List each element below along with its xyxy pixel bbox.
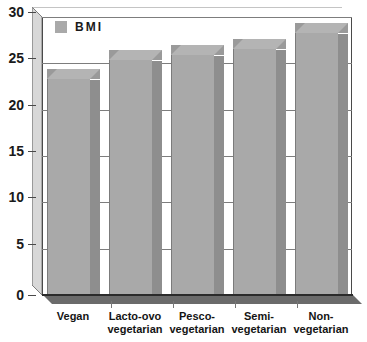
bar xyxy=(47,79,90,295)
x-category-label: Vegan xyxy=(39,310,107,323)
bar-top-face xyxy=(109,50,162,60)
bar-side-face xyxy=(90,80,100,295)
x-tick-mark xyxy=(173,301,174,308)
x-category-label: Semi-vegetarian xyxy=(225,310,293,336)
x-category-label-line: vegetarian xyxy=(101,323,169,336)
y-tick-mark xyxy=(28,197,36,198)
x-tick-mark xyxy=(111,301,112,308)
x-category-label-line: Pesco- xyxy=(163,310,231,323)
bar-top-face xyxy=(171,45,224,55)
x-category-label-line: Semi- xyxy=(225,310,293,323)
legend-label-bmi: BMI xyxy=(75,20,103,34)
y-tick-mark xyxy=(28,244,36,245)
x-category-label-line: Vegan xyxy=(39,310,107,323)
bar-top-face xyxy=(47,69,100,79)
y-tick-mark xyxy=(28,151,36,152)
y-tick-label: 30 xyxy=(0,5,24,19)
x-category-label: Pesco-vegetarian xyxy=(163,310,231,336)
bar-front-face xyxy=(233,49,276,295)
bar-side-face xyxy=(338,34,348,295)
gridline xyxy=(42,17,352,18)
bar xyxy=(295,33,338,295)
x-category-label: Lacto-ovovegetarian xyxy=(101,310,169,336)
bar xyxy=(233,49,276,295)
x-category-label-line: vegetarian xyxy=(287,323,355,336)
y-tick-label: 10 xyxy=(0,190,24,204)
x-category-label-line: vegetarian xyxy=(163,323,231,336)
bar-side-face xyxy=(152,61,162,295)
y-tick-mark xyxy=(28,12,36,13)
bar-front-face xyxy=(171,55,214,295)
y-tick-mark xyxy=(28,105,36,106)
y-tick-mark xyxy=(28,58,36,59)
bmi-bar-chart: 051015202530 BMI VeganLacto-ovovegetaria… xyxy=(0,0,367,342)
y-tick-label: 20 xyxy=(0,98,24,112)
bar xyxy=(109,60,152,295)
bar-front-face xyxy=(47,79,90,295)
bar-top-face xyxy=(295,23,348,33)
bar xyxy=(171,55,214,295)
y-tick-label: 15 xyxy=(0,144,24,158)
bar-front-face xyxy=(295,33,338,295)
x-category-label-line: Non- xyxy=(287,310,355,323)
y-tick-label: 5 xyxy=(0,237,24,251)
y-tick-mark xyxy=(28,295,36,296)
bar-top-face xyxy=(233,39,286,49)
bar-side-face xyxy=(276,50,286,295)
legend: BMI xyxy=(55,20,103,34)
x-tick-mark xyxy=(235,301,236,308)
x-axis-baseline xyxy=(42,294,353,296)
x-category-label-line: Lacto-ovo xyxy=(101,310,169,323)
y-tick-label: 25 xyxy=(0,51,24,65)
bar-side-face xyxy=(214,56,224,295)
legend-swatch-bmi xyxy=(55,21,67,33)
y-tick-label: 0 xyxy=(0,288,24,302)
x-category-label: Non-vegetarian xyxy=(287,310,355,336)
x-tick-mark xyxy=(297,301,298,308)
bar-front-face xyxy=(109,60,152,295)
x-category-label-line: vegetarian xyxy=(225,323,293,336)
